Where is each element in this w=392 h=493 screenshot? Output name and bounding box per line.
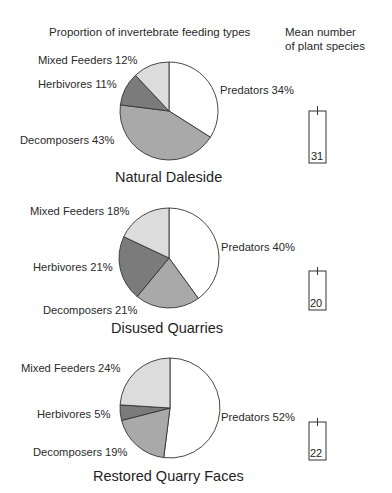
feeding-types-figure: Proportion of invertebrate feeding types… (0, 0, 392, 493)
bar-mean-plant-species: 20 (309, 267, 326, 310)
label-decomposers: Decomposers 19% (33, 446, 128, 458)
bar-value: 20 (310, 297, 322, 309)
pie-slice-predators (164, 358, 220, 458)
panel-disused-quarries: Mixed Feeders 18% Herbivores 21% Decompo… (30, 205, 326, 336)
pie-chart-restored-quarry-faces (120, 358, 220, 458)
bar-column-title-line2: of plant species (285, 40, 365, 52)
bar-value: 31 (311, 150, 323, 162)
pie-chart-disused-quarries (119, 208, 219, 308)
label-herbivores: Herbivores 5% (37, 408, 110, 420)
label-mixed-feeders: Mixed Feeders 18% (30, 205, 130, 217)
pie-column-title: Proportion of invertebrate feeding types (49, 26, 251, 38)
site-title: Natural Daleside (115, 169, 222, 185)
label-predators: Predators 34% (220, 84, 294, 96)
panel-restored-quarry-faces: Mixed Feeders 24% Herbivores 5% Decompos… (21, 358, 326, 484)
bar-mean-plant-species: 22 (309, 418, 326, 460)
label-mixed-feeders: Mixed Feeders 12% (38, 54, 138, 66)
site-title: Disused Quarries (111, 320, 223, 336)
label-predators: Predators 52% (221, 411, 295, 423)
label-decomposers: Decomposers 21% (43, 304, 138, 316)
bar-mean-plant-species: 31 (309, 106, 326, 163)
label-herbivores: Herbivores 11% (38, 78, 117, 90)
pie-chart-natural-daleside (120, 62, 218, 160)
site-title: Restored Quarry Faces (93, 468, 244, 484)
label-mixed-feeders: Mixed Feeders 24% (21, 362, 121, 374)
label-predators: Predators 40% (221, 241, 295, 253)
bar-column-title-line1: Mean number (285, 26, 356, 38)
panel-natural-daleside: Mixed Feeders 12% Herbivores 11% Decompo… (20, 54, 326, 185)
bar-value: 22 (310, 447, 322, 459)
label-herbivores: Herbivores 21% (33, 261, 113, 273)
pie-slice-mixed-feeders (120, 358, 170, 408)
label-decomposers: Decomposers 43% (20, 134, 115, 146)
